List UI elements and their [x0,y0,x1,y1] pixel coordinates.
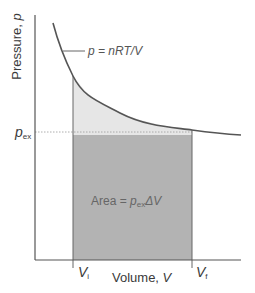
vf-label: Vf [196,265,208,281]
y-axis-label: Pressure, p [10,7,23,87]
x-axis-label: Volume, V [112,271,171,284]
vi-label: Vi [78,265,89,281]
curve-label: p = nRT/V [88,45,142,57]
area-under-curve [73,76,192,135]
area-label: Area = pexΔV [91,195,161,209]
pex-label: pex [15,125,31,141]
